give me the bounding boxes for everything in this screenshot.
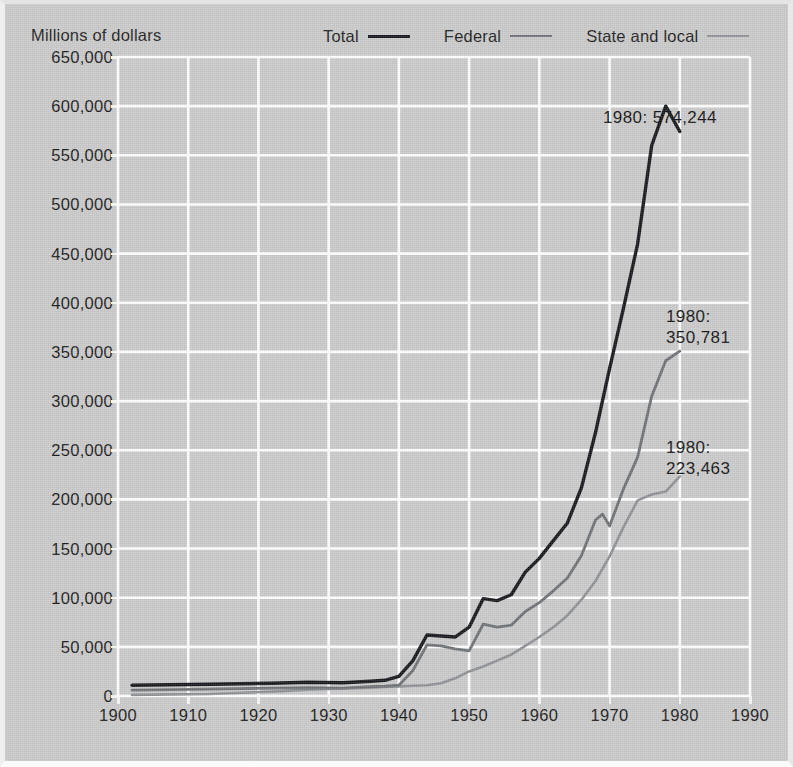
legend-line-swatch-icon (368, 35, 410, 38)
legend-entry-state-and-local: State and local (586, 27, 749, 46)
y-axis-tick-marks (109, 57, 118, 696)
x-tick-label: 1980 (644, 706, 716, 725)
annotation-federal-1980: 1980: 350,781 (666, 307, 730, 348)
x-axis-tick-labels: 1900191019201930194019501960197019801990 (118, 706, 750, 734)
legend-entry-federal: Federal (444, 27, 552, 46)
y-tick-label: 150,000 (9, 539, 113, 558)
series-line-state-and-local (132, 476, 680, 695)
y-axis-title: Millions of dollars (31, 26, 161, 45)
y-axis-tick-labels: 050,000100,000150,000200,000250,000300,0… (5, 57, 113, 696)
x-tick-label: 1940 (363, 706, 435, 725)
y-tick-label: 100,000 (9, 588, 113, 607)
legend-label: Federal (444, 27, 501, 46)
y-tick-label: 550,000 (9, 146, 113, 165)
legend-label: State and local (586, 27, 698, 46)
gridlines (118, 57, 750, 696)
y-tick-label: 400,000 (9, 293, 113, 312)
chart-legend: TotalFederalState and local (323, 24, 773, 48)
x-tick-label: 1970 (574, 706, 646, 725)
x-axis-tick-marks (118, 696, 750, 706)
x-tick-label: 1990 (714, 706, 786, 725)
plot-area (118, 57, 750, 696)
x-tick-label: 1960 (503, 706, 575, 725)
y-tick-label: 0 (9, 687, 113, 706)
x-tick-label: 1910 (152, 706, 224, 725)
annotation-total-1980: 1980: 574,244 (603, 108, 717, 129)
annotation-state-local-1980: 1980: 223,463 (666, 438, 730, 479)
x-tick-label: 1920 (222, 706, 294, 725)
legend-line-swatch-icon (510, 35, 552, 37)
x-tick-label: 1900 (82, 706, 154, 725)
legend-line-swatch-icon (707, 35, 749, 37)
x-tick-label: 1930 (293, 706, 365, 725)
y-tick-label: 650,000 (9, 48, 113, 67)
y-tick-label: 500,000 (9, 195, 113, 214)
plot-svg (118, 57, 750, 696)
y-tick-label: 250,000 (9, 441, 113, 460)
x-tick-label: 1950 (433, 706, 505, 725)
chart-figure: Millions of dollars TotalFederalState an… (0, 0, 793, 767)
y-tick-label: 450,000 (9, 244, 113, 263)
y-tick-label: 200,000 (9, 490, 113, 509)
y-tick-label: 300,000 (9, 392, 113, 411)
y-tick-label: 600,000 (9, 97, 113, 116)
y-tick-label: 350,000 (9, 342, 113, 361)
legend-entry-total: Total (323, 27, 410, 46)
legend-label: Total (323, 27, 359, 46)
y-tick-label: 50,000 (9, 637, 113, 656)
